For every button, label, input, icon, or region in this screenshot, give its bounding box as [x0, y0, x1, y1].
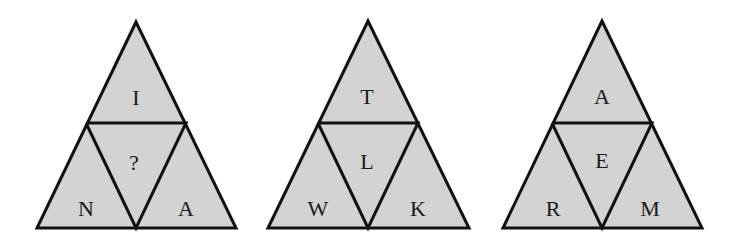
- triangle-1-top-letter: I: [132, 85, 139, 110]
- triangle-1-left-letter: N: [78, 196, 94, 221]
- triangle-1-center-letter: ?: [129, 150, 139, 175]
- triangle-3-right-letter: M: [640, 196, 660, 221]
- triangle-1-outline: [37, 22, 236, 228]
- triangle-1-right-letter: A: [178, 196, 194, 221]
- triangle-2-center-letter: L: [360, 149, 373, 174]
- triangle-2-left-letter: W: [308, 196, 329, 221]
- triangle-2: T L W K: [268, 21, 469, 228]
- triangle-1: I ? N A: [37, 22, 236, 228]
- triangle-3-top-letter: A: [594, 84, 610, 109]
- triangle-puzzle: I ? N A T L W K A E R M: [0, 0, 740, 247]
- triangle-3: A E R M: [503, 21, 702, 228]
- triangle-3-center-letter: E: [595, 148, 608, 173]
- triangle-2-top-letter: T: [360, 84, 374, 109]
- triangle-3-left-letter: R: [546, 196, 561, 221]
- triangle-2-right-letter: K: [410, 196, 426, 221]
